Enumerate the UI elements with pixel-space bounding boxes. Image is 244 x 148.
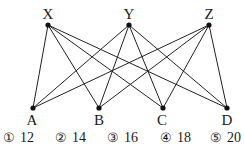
choice-value: 14 [72,130,86,145]
choice-2[interactable]: ②14 [55,130,86,146]
edge-y-d [129,25,227,108]
edge-z-b [99,25,209,108]
label-x: X [43,6,54,22]
edge-y-a [33,25,129,108]
choice-value: 18 [177,130,191,145]
edge-x-d [48,25,227,108]
choice-value: 20 [227,130,241,145]
node-b [96,105,101,110]
choice-marker: ④ [160,130,172,145]
choice-value: 16 [124,130,138,145]
label-a: A [27,112,38,128]
answer-choices: ①12 ②14 ③16 ④18 ⑤20 [0,130,244,148]
edge-x-a [33,25,48,108]
choice-marker: ① [3,130,15,145]
choice-marker: ③ [107,130,119,145]
node-z [206,22,211,27]
edge-x-b [48,25,99,108]
choice-marker: ② [55,130,67,145]
label-z: Z [204,6,213,22]
edge-z-c [163,25,209,108]
label-y: Y [124,6,135,22]
node-a [30,105,35,110]
choice-3[interactable]: ③16 [107,130,138,146]
choice-5[interactable]: ⑤20 [210,130,241,146]
choice-1[interactable]: ①12 [3,130,34,146]
label-b: B [94,112,104,128]
nodes [30,22,229,110]
choice-value: 12 [20,130,34,145]
node-d [224,105,229,110]
label-c: C [157,112,167,128]
node-c [160,105,165,110]
node-x [45,22,50,27]
label-d: D [222,112,233,128]
node-y [126,22,131,27]
edge-z-a [33,25,209,108]
choice-4[interactable]: ④18 [160,130,191,146]
choice-marker: ⑤ [210,130,222,145]
bipartite-graph: X Y Z A B C D [0,0,244,130]
edges [33,25,227,108]
